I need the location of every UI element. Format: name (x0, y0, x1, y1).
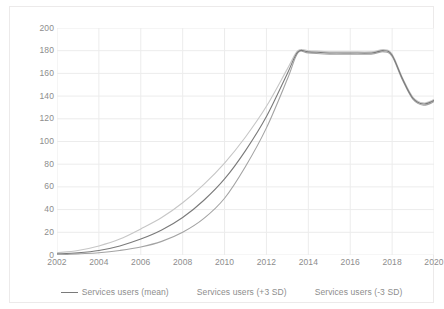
y-axis-tick-labels: 200180160140120100806040200 (10, 28, 54, 255)
x-axis-tick-2008: 2008 (163, 257, 203, 268)
y-axis-tick-40: 40 (12, 205, 54, 214)
chart-legend: Services users (mean)Services users (+3 … (19, 282, 444, 302)
series-lines (57, 28, 434, 255)
x-axis-tick-2020: 2020 (414, 257, 444, 268)
y-axis-tick-120: 120 (12, 114, 54, 123)
x-axis-tick-2016: 2016 (330, 257, 370, 268)
legend-line-swatch-icon (61, 292, 78, 293)
chart-figure: 200180160140120100806040200 200220042006… (0, 0, 444, 309)
legend-entry-1[interactable]: Services users (mean) (61, 287, 169, 297)
x-axis-tick-2010: 2010 (205, 257, 245, 268)
legend-label: Services users (-3 SD) (315, 287, 403, 297)
y-axis-tick-200: 200 (12, 24, 54, 33)
y-axis-tick-160: 160 (12, 69, 54, 78)
y-axis-tick-60: 60 (12, 182, 54, 191)
chart-frame: 200180160140120100806040200 200220042006… (9, 6, 434, 303)
legend-entry-2[interactable]: Services users (+3 SD) (197, 287, 287, 297)
legend-entry-3[interactable]: Services users (-3 SD) (315, 287, 403, 297)
y-axis-tick-180: 180 (12, 46, 54, 55)
x-axis-tick-labels: 2002200420062008201020122014201620182020 (57, 257, 434, 273)
y-axis-tick-80: 80 (12, 160, 54, 169)
x-axis-tick-2012: 2012 (246, 257, 286, 268)
y-axis-tick-140: 140 (12, 92, 54, 101)
plot-area (57, 28, 434, 255)
x-axis-tick-2004: 2004 (79, 257, 119, 268)
x-axis-tick-2018: 2018 (372, 257, 412, 268)
legend-label: Services users (mean) (82, 287, 169, 297)
y-axis-tick-20: 20 (12, 228, 54, 237)
y-axis-tick-100: 100 (12, 137, 54, 146)
legend-label: Services users (+3 SD) (197, 287, 287, 297)
x-axis-tick-2002: 2002 (37, 257, 77, 268)
x-axis-tick-2006: 2006 (121, 257, 161, 268)
x-axis-tick-2014: 2014 (288, 257, 328, 268)
